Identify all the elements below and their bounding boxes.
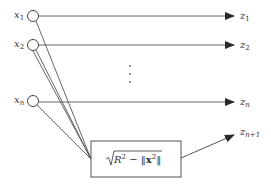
network-diagram: x1 x2 xn z1 z2 zn zn+1 R2 − ‖x2‖ — [0, 0, 271, 185]
edge-x1-to-box — [36, 21, 91, 159]
edge-x2-to-box — [36, 50, 91, 159]
input-label-x1: x1 — [14, 9, 24, 22]
arrow-box-to-zn1 — [181, 135, 234, 158]
input-label-xn: xn — [14, 94, 25, 107]
output-label-zn: zn — [239, 96, 250, 109]
input-node-x1 — [28, 11, 39, 22]
output-label-z2: z2 — [239, 39, 250, 52]
edge-x2b-to-box — [33, 51, 91, 159]
ellipsis-dot-1 — [129, 65, 131, 67]
input-node-x2 — [28, 40, 39, 51]
ellipsis-dot-3 — [129, 81, 131, 83]
ellipsis-dot-2 — [129, 73, 131, 75]
output-label-zn1: zn+1 — [239, 126, 260, 139]
input-node-xn — [28, 96, 39, 107]
output-label-z1: z1 — [239, 10, 250, 23]
input-label-x2: x2 — [14, 38, 24, 51]
edge-xn-to-box — [37, 105, 91, 159]
